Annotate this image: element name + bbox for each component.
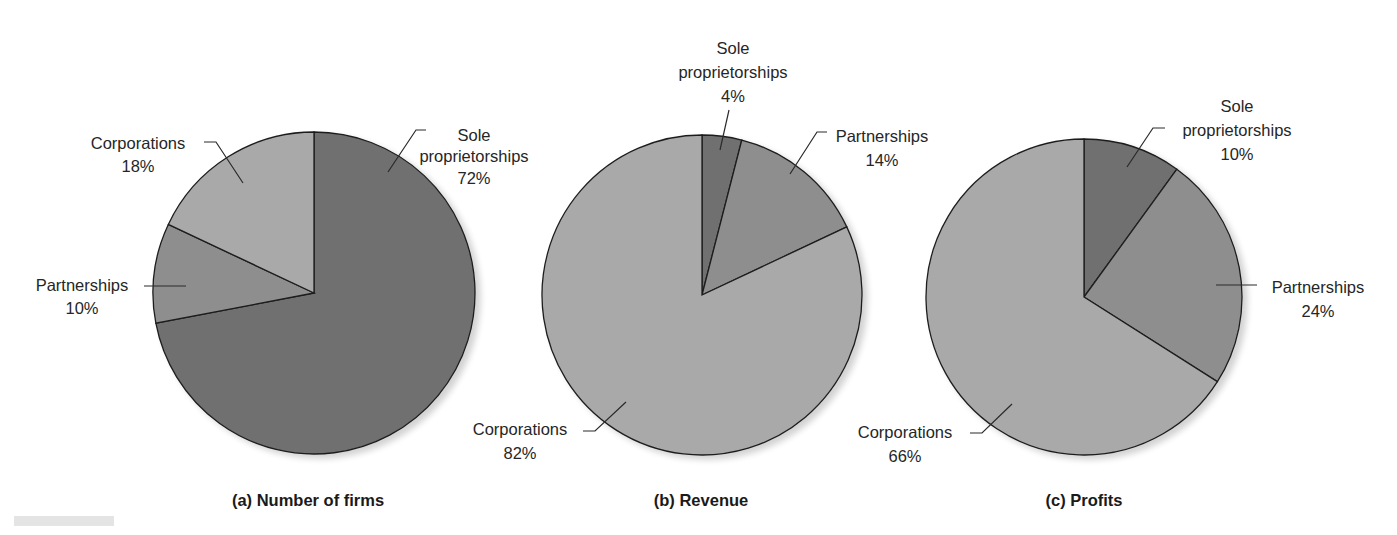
label-c-partnerships-line1: Partnerships bbox=[1272, 278, 1365, 296]
label-c-sole-line2: proprietorships bbox=[1182, 121, 1291, 139]
label-a-partnerships-line1: Partnerships bbox=[36, 276, 129, 294]
label-a-sole-pct: 72% bbox=[457, 169, 490, 187]
label-c-corporations-line1: Corporations bbox=[858, 423, 952, 441]
label-c-partnerships-pct: 24% bbox=[1301, 302, 1334, 320]
pie-chart-profits bbox=[926, 139, 1242, 455]
pie-chart-number-of-firms bbox=[153, 132, 475, 454]
label-b-partnerships-line1: Partnerships bbox=[836, 127, 929, 145]
label-b-partnerships-pct: 14% bbox=[865, 151, 898, 169]
caption-revenue: (b) Revenue bbox=[654, 491, 748, 509]
watermark-bar bbox=[14, 516, 114, 526]
pie-chart-revenue bbox=[542, 135, 862, 455]
label-b-sole-line1: Sole bbox=[716, 39, 749, 57]
label-b-sole-pct: 4% bbox=[721, 87, 745, 105]
label-b-corporations-line1: Corporations bbox=[473, 420, 567, 438]
label-b-corporations-pct: 82% bbox=[503, 444, 536, 462]
caption-number-of-firms: (a) Number of firms bbox=[232, 491, 384, 509]
label-a-sole-line1: Sole bbox=[457, 126, 490, 144]
label-c-corporations-pct: 66% bbox=[888, 447, 921, 465]
label-a-corporations-pct: 18% bbox=[121, 157, 154, 175]
pie-charts-figure: Sole proprietorships 72% Corporations 18… bbox=[0, 0, 1397, 535]
label-a-partnerships-pct: 10% bbox=[65, 299, 98, 317]
label-a-corporations-line1: Corporations bbox=[91, 134, 185, 152]
caption-profits: (c) Profits bbox=[1045, 491, 1122, 509]
label-a-sole-line2: proprietorships bbox=[419, 147, 528, 165]
label-b-sole-line2: proprietorships bbox=[678, 63, 787, 81]
label-c-sole-line1: Sole bbox=[1220, 97, 1253, 115]
label-c-sole-pct: 10% bbox=[1220, 145, 1253, 163]
